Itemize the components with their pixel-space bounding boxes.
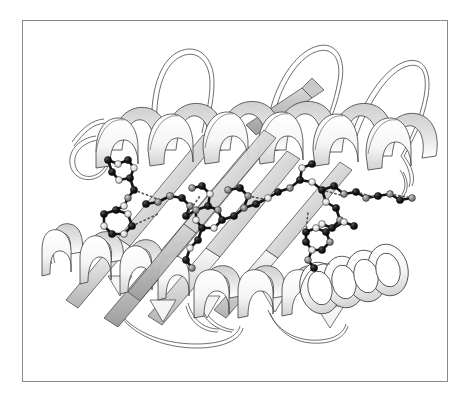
helix-lc-front <box>194 270 317 318</box>
protein-structure-illustration <box>0 0 469 401</box>
figure-root <box>0 0 469 401</box>
